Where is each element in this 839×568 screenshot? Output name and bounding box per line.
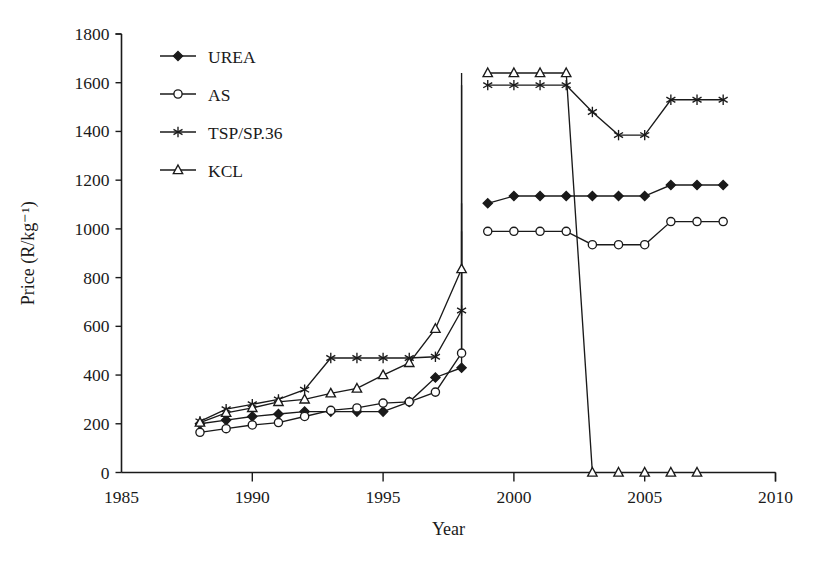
- price-vs-year-line-chart: 0200400600800100012001400160018001985199…: [0, 0, 839, 568]
- data-point-urea: [562, 191, 571, 200]
- x-axis-tick-label: 1990: [235, 487, 270, 507]
- data-point-urea: [719, 180, 728, 189]
- data-point-urea: [666, 180, 675, 189]
- x-axis-title: Year: [432, 519, 465, 539]
- data-point-as: [353, 404, 361, 412]
- legend-label: KCL: [208, 161, 243, 181]
- data-point-urea: [640, 191, 649, 200]
- y-axis-tick-label: 1400: [75, 121, 110, 141]
- data-point-as: [641, 241, 649, 249]
- legend-label: UREA: [208, 47, 256, 67]
- data-point-as: [301, 412, 309, 420]
- data-point-as: [379, 399, 387, 407]
- y-axis-tick-label: 1800: [75, 24, 110, 44]
- x-axis-tick-label: 2010: [758, 487, 793, 507]
- legend-item-tsp-sp-36: TSP/SP.36: [160, 123, 283, 143]
- y-axis-title-text: Price (R/kg⁻¹): [18, 201, 39, 305]
- data-point-as: [327, 406, 335, 414]
- data-point-urea: [457, 363, 466, 372]
- y-axis-title: Price (R/kg⁻¹): [18, 201, 39, 305]
- y-axis-tick-label: 0: [101, 463, 110, 483]
- x-axis-tick-label: 2000: [496, 487, 531, 507]
- legend-item-kcl: KCL: [160, 161, 243, 181]
- data-point-kcl: [483, 68, 492, 77]
- data-point-as: [405, 398, 413, 406]
- x-axis-tick-label: 1995: [366, 487, 401, 507]
- data-point-kcl: [562, 68, 571, 77]
- y-axis-tick-label: 600: [83, 316, 110, 336]
- y-axis-tick-label: 200: [83, 414, 110, 434]
- data-point-urea: [535, 191, 544, 200]
- data-point-urea: [588, 191, 597, 200]
- data-point-urea: [483, 199, 492, 208]
- legend-marker-filled-diamond: [173, 51, 182, 60]
- data-point-kcl: [352, 383, 361, 392]
- data-point-kcl: [535, 68, 544, 77]
- data-point-as: [457, 349, 465, 357]
- data-point-as: [222, 425, 230, 433]
- legend-item-as: AS: [160, 85, 230, 105]
- data-point-kcl: [378, 370, 387, 379]
- legend-label: AS: [208, 85, 230, 105]
- legend-marker-open-circle: [174, 90, 182, 98]
- x-axis-tick-label: 1985: [104, 487, 139, 507]
- y-axis-tick-label: 1200: [75, 170, 110, 190]
- y-axis-tick-label: 800: [83, 268, 110, 288]
- data-point-as: [562, 227, 570, 235]
- data-point-urea: [379, 407, 388, 416]
- data-point-as: [614, 241, 622, 249]
- data-point-urea: [274, 409, 283, 418]
- data-point-as: [667, 217, 675, 225]
- x-axis-tick-label: 2005: [627, 487, 662, 507]
- data-point-as: [248, 421, 256, 429]
- y-axis-tick-label: 1000: [75, 219, 110, 239]
- y-axis-tick-label: 1600: [75, 73, 110, 93]
- legend-marker-open-triangle: [173, 165, 182, 174]
- data-point-as: [510, 227, 518, 235]
- data-point-as: [693, 217, 701, 225]
- legend-label: TSP/SP.36: [208, 123, 283, 143]
- legend-item-urea: UREA: [160, 47, 256, 67]
- data-point-as: [484, 227, 492, 235]
- data-point-kcl: [509, 68, 518, 77]
- data-point-kcl: [431, 324, 440, 333]
- chart-container: 0200400600800100012001400160018001985199…: [0, 0, 839, 568]
- data-point-urea: [248, 412, 257, 421]
- data-point-as: [196, 428, 204, 436]
- data-point-as: [431, 388, 439, 396]
- data-point-urea: [509, 191, 518, 200]
- data-point-as: [274, 418, 282, 426]
- data-point-kcl: [457, 264, 466, 273]
- y-axis-tick-label: 400: [83, 365, 110, 385]
- data-point-as: [719, 217, 727, 225]
- data-point-as: [536, 227, 544, 235]
- data-point-urea: [614, 191, 623, 200]
- data-point-urea: [692, 180, 701, 189]
- data-point-as: [588, 241, 596, 249]
